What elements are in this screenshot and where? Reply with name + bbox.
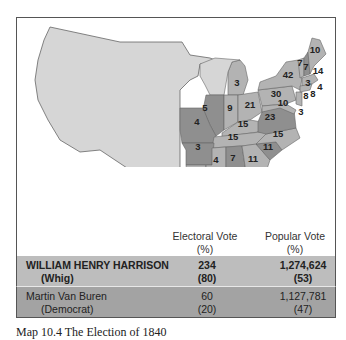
electoral-vote-value: 60 bbox=[187, 290, 227, 303]
table-row-harrison: WILLIAM HENRY HARRISON (Whig) 234 (80) 1… bbox=[16, 256, 336, 287]
state-electoral-label: 3 bbox=[234, 77, 239, 88]
state-electoral-label: 7 bbox=[297, 57, 302, 68]
state-new-jersey bbox=[296, 92, 302, 106]
state-electoral-label: 23 bbox=[265, 111, 276, 122]
electoral-vote-value: 234 bbox=[187, 259, 227, 272]
candidate-party: (Democrat) bbox=[41, 303, 94, 316]
state-electoral-label: 14 bbox=[313, 65, 324, 76]
state-electoral-label: 5 bbox=[202, 102, 208, 113]
popular-vote-percent: (53) bbox=[273, 272, 333, 285]
popular-vote-percent: (47) bbox=[273, 303, 333, 316]
state-electoral-label: 4 bbox=[213, 154, 219, 165]
state-electoral-label: 3 bbox=[298, 106, 303, 117]
state-electoral-label: 15 bbox=[228, 131, 239, 142]
candidate-party: (Whig) bbox=[41, 272, 74, 285]
state-electoral-label: 8 bbox=[303, 90, 308, 101]
state-electoral-label: 3 bbox=[195, 141, 200, 152]
table-row-van-buren: Martin Van Buren (Democrat) 60 (20) 1,12… bbox=[16, 287, 336, 318]
state-electoral-label: 15 bbox=[238, 118, 249, 129]
map-caption: Map 10.4 The Election of 1840 bbox=[16, 325, 166, 340]
electoral-vote-percent: (20) bbox=[187, 303, 227, 316]
state-electoral-label: 9 bbox=[227, 102, 232, 113]
popular-vote-header-label: Popular Vote bbox=[256, 230, 334, 243]
state-electoral-label: 15 bbox=[273, 128, 284, 139]
electoral-vote-header-label: Electoral Vote bbox=[162, 230, 248, 243]
state-electoral-label: 11 bbox=[263, 141, 274, 152]
popular-vote-value: 1,127,781 bbox=[273, 290, 333, 303]
electoral-vote-percent: (80) bbox=[187, 272, 227, 285]
state-electoral-label: 42 bbox=[283, 69, 294, 80]
electoral-vote-header-unit: (%) bbox=[162, 243, 248, 256]
electoral-vote-header: Electoral Vote (%) bbox=[162, 230, 248, 256]
state-electoral-label: 10 bbox=[278, 97, 289, 108]
state-electoral-label: 21 bbox=[245, 99, 256, 110]
candidate-name: WILLIAM HENRY HARRISON bbox=[26, 259, 169, 272]
state-electoral-label: 8 bbox=[310, 88, 315, 99]
state-new-york bbox=[258, 60, 302, 90]
state-electoral-label: 10 bbox=[310, 44, 321, 55]
popular-vote-header-unit: (%) bbox=[256, 243, 334, 256]
state-electoral-label: 4 bbox=[194, 116, 200, 127]
state-electoral-label: 11 bbox=[248, 153, 259, 164]
election-map: 107714423488301033592123415151531147115 bbox=[16, 17, 334, 167]
state-electoral-label: 7 bbox=[303, 61, 308, 72]
popular-vote-value: 1,274,624 bbox=[273, 259, 333, 272]
state-electoral-label: 3 bbox=[305, 77, 310, 88]
popular-vote-header: Popular Vote (%) bbox=[256, 230, 334, 256]
candidate-name: Martin Van Buren bbox=[26, 290, 107, 303]
state-electoral-label: 4 bbox=[317, 81, 323, 92]
state-electoral-label: 7 bbox=[230, 152, 235, 163]
